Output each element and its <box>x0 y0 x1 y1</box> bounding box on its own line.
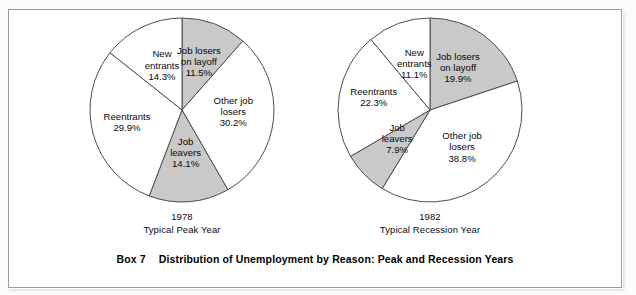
pie-subtitle-1978: Typical Peak Year <box>84 224 280 237</box>
pie-chart-1982: Job loserson layoff19.9%Other joblosers3… <box>332 14 528 236</box>
pie-year-1982: 1982 <box>332 211 528 224</box>
pie-charts-row: Job loserson layoff11.5%Other joblosers3… <box>9 10 621 246</box>
box-caption-title: Distribution of Unemployment by Reason: … <box>159 253 514 265</box>
box-frame: Job loserson layoff11.5%Other joblosers3… <box>8 9 622 288</box>
pie-svg-1978: Job loserson layoff11.5%Other joblosers3… <box>84 14 280 210</box>
figure-root: Job loserson layoff11.5%Other joblosers3… <box>0 0 636 295</box>
pie-caption-1978: 1978 Typical Peak Year <box>84 211 280 236</box>
pie-subtitle-1982: Typical Recession Year <box>332 224 528 237</box>
box-caption: Box 7Distribution of Unemployment by Rea… <box>9 253 621 265</box>
pie-year-1978: 1978 <box>84 211 280 224</box>
pie-caption-1982: 1982 Typical Recession Year <box>332 211 528 236</box>
box-caption-number: Box 7 <box>116 253 145 265</box>
pie-svg-1982: Job loserson layoff19.9%Other joblosers3… <box>332 14 528 210</box>
pie-chart-1978: Job loserson layoff11.5%Other joblosers3… <box>84 14 280 236</box>
